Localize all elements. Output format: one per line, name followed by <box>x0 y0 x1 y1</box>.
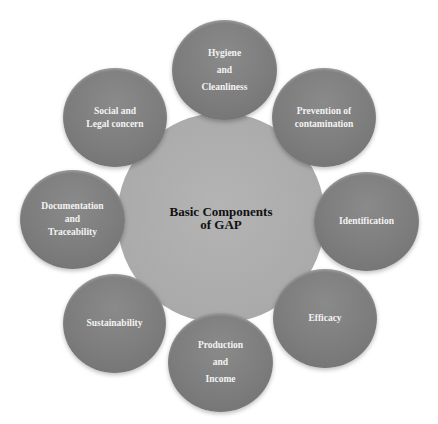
node-efficacy: Efficacy <box>273 269 377 368</box>
center-hub-label: Basic Components of GAP <box>170 205 273 231</box>
node-prevention-contamination: Prevention of contamination <box>272 68 376 167</box>
node-production-income: Production and Income <box>168 313 273 412</box>
node-hygiene-cleanliness: Hygiene and Cleanliness <box>172 20 277 120</box>
node-label: Prevention of contamination <box>295 105 354 131</box>
gap-components-diagram: Basic Components of GAP Hygiene and Clea… <box>0 0 438 424</box>
node-social-legal-concern: Social and Legal concern <box>63 68 167 167</box>
node-documentation-traceability: Documentation and Traceability <box>20 170 125 269</box>
node-label: Sustainability <box>87 317 143 330</box>
node-label: Documentation and Traceability <box>41 200 103 239</box>
node-label: Production and Income <box>198 337 243 388</box>
node-identification: Identification <box>314 172 419 271</box>
node-label: Identification <box>339 215 394 228</box>
node-sustainability: Sustainability <box>63 274 166 373</box>
node-label: Efficacy <box>308 312 341 325</box>
node-label: Social and Legal concern <box>86 105 143 131</box>
node-label: Hygiene and Cleanliness <box>202 45 248 96</box>
